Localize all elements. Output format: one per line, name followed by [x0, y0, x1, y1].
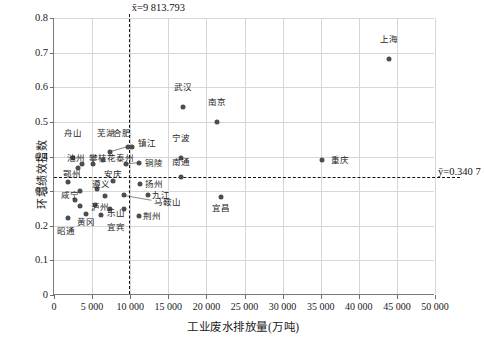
- y-tick-label: 0.8: [35, 13, 48, 24]
- y-tick-label: 0.1: [35, 255, 48, 266]
- data-point-label: 安庆: [104, 169, 122, 178]
- x-tick: [54, 295, 55, 299]
- data-point[interactable]: [215, 119, 220, 124]
- data-point[interactable]: [99, 212, 104, 217]
- data-point[interactable]: [125, 144, 130, 149]
- x-tick-label: 40 000: [345, 302, 373, 312]
- data-point-label: 鄂州: [63, 169, 81, 178]
- data-point-label: 舟山: [64, 129, 82, 138]
- data-point-label: 上海: [380, 35, 398, 44]
- data-point-label: 宁波: [172, 134, 190, 143]
- y-tick-label: 0.7: [35, 47, 48, 58]
- data-point-label: 宜昌: [212, 204, 230, 213]
- data-point-label: 武汉: [174, 83, 192, 92]
- x-tick: [435, 295, 436, 299]
- x-tick-label: 5 000: [81, 302, 104, 312]
- data-point[interactable]: [138, 181, 143, 186]
- data-point-label: 宜宾: [107, 223, 125, 232]
- y-tick: [50, 157, 54, 158]
- y-tick-label: 0.3: [35, 186, 48, 197]
- y-tick-label: 0.5: [35, 117, 48, 128]
- x-tick-label: 0: [52, 302, 57, 312]
- x-tick: [397, 295, 398, 299]
- y-tick: [50, 260, 54, 261]
- data-point[interactable]: [320, 157, 325, 162]
- x-axis-title: 工业废水排放量(万吨): [53, 318, 434, 334]
- data-point[interactable]: [218, 195, 223, 200]
- data-point[interactable]: [77, 203, 82, 208]
- x-mean-annotation: x̄=9 813.793: [132, 2, 185, 13]
- x-tick-label: 20 000: [193, 302, 221, 312]
- gridline-horizontal: [54, 87, 434, 88]
- data-point[interactable]: [100, 157, 105, 162]
- y-tick: [50, 18, 54, 19]
- data-point-label: 马鞍山: [154, 197, 181, 206]
- x-tick-label: 35 000: [307, 302, 335, 312]
- y-tick: [50, 191, 54, 192]
- data-point[interactable]: [180, 104, 185, 109]
- gridline-vertical: [435, 18, 436, 294]
- x-tick-label: 45 000: [383, 302, 411, 312]
- data-point-label: 芜湖: [97, 129, 115, 138]
- gridline-horizontal: [54, 53, 434, 54]
- data-point[interactable]: [179, 174, 184, 179]
- data-point-label: 泸州: [91, 202, 109, 211]
- y-tick-label: 0.4: [35, 151, 48, 162]
- x-tick: [359, 295, 360, 299]
- data-point[interactable]: [110, 178, 115, 183]
- data-point-label: 咸宁: [61, 191, 79, 200]
- data-point-label: 黄冈: [77, 218, 95, 227]
- data-point[interactable]: [80, 162, 85, 167]
- x-tick: [206, 295, 207, 299]
- data-point[interactable]: [136, 214, 141, 219]
- x-tick: [283, 295, 284, 299]
- data-point[interactable]: [145, 192, 150, 197]
- x-tick-label: 30 000: [269, 302, 297, 312]
- x-tick: [168, 295, 169, 299]
- data-point[interactable]: [77, 189, 82, 194]
- y-tick: [50, 53, 54, 54]
- data-point-label: 镇江: [138, 138, 156, 147]
- x-tick: [245, 295, 246, 299]
- data-point-label: 合肥: [113, 129, 131, 138]
- data-point-label: 乐山: [107, 208, 125, 217]
- x-tick-label: 10 000: [116, 302, 144, 312]
- data-point[interactable]: [130, 144, 135, 149]
- y-tick-label: 0.2: [35, 221, 48, 232]
- y-tick: [50, 122, 54, 123]
- x-tick: [321, 295, 322, 299]
- data-point-label: 南京: [208, 98, 226, 107]
- x-tick: [130, 295, 131, 299]
- y-tick: [50, 226, 54, 227]
- y-mean-annotation: ȳ=0.340 7: [438, 166, 481, 177]
- data-point-label: 昭通: [57, 227, 75, 236]
- y-tick-label: 0: [43, 290, 48, 301]
- x-tick: [92, 295, 93, 299]
- data-point-label: 扬州: [145, 179, 163, 188]
- x-tick-label: 50 000: [421, 302, 449, 312]
- gridline-horizontal: [54, 18, 434, 19]
- y-tick-label: 0.6: [35, 82, 48, 93]
- plot-area: 05 00010 00015 00020 00025 00030 00035 0…: [53, 18, 434, 295]
- data-point[interactable]: [65, 216, 70, 221]
- x-tick-label: 25 000: [231, 302, 259, 312]
- data-point[interactable]: [84, 211, 89, 216]
- data-point-label: 遵义: [92, 179, 110, 188]
- data-point-label: 南通: [172, 158, 190, 167]
- data-point-label: 重庆: [331, 155, 349, 164]
- data-point[interactable]: [65, 180, 70, 185]
- scatter-chart-figure: 环境绩效指数 工业废水排放量(万吨) 05 00010 00015 00020 …: [0, 0, 484, 348]
- data-point-label: 荆州: [143, 212, 161, 221]
- data-point-label: 铜陵: [145, 159, 163, 168]
- data-point[interactable]: [103, 194, 108, 199]
- data-point[interactable]: [136, 161, 141, 166]
- gridline-horizontal: [54, 122, 434, 123]
- data-point[interactable]: [122, 193, 127, 198]
- gridline-horizontal: [54, 260, 434, 261]
- y-tick: [50, 87, 54, 88]
- data-point-label: 泰州: [116, 154, 134, 163]
- y-tick: [50, 295, 54, 296]
- data-point[interactable]: [387, 56, 392, 61]
- x-tick-label: 15 000: [155, 302, 183, 312]
- gridline-horizontal: [54, 191, 434, 192]
